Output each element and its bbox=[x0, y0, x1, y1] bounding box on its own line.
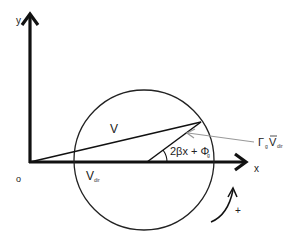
v-label: V bbox=[110, 122, 118, 136]
svg-text:g: g bbox=[265, 143, 268, 149]
rotation-arrow-icon bbox=[211, 188, 237, 222]
v-dir-label: V dir bbox=[86, 169, 100, 183]
gamma-label: Γ g V dir bbox=[258, 136, 283, 149]
angle-arc bbox=[163, 150, 167, 162]
svg-text:dir: dir bbox=[277, 143, 283, 149]
gamma-pointer bbox=[187, 129, 254, 142]
phasor-diagram: y x o V V dir 2βx + Φ g Γ g V dir bbox=[0, 0, 292, 242]
rotation-sign: + bbox=[235, 205, 241, 216]
svg-text:Γ: Γ bbox=[258, 136, 264, 148]
y-axis bbox=[22, 14, 38, 163]
svg-text:2βx + Φ: 2βx + Φ bbox=[170, 145, 209, 157]
reflection-circle bbox=[74, 90, 214, 230]
x-axis-label: x bbox=[254, 163, 259, 174]
svg-text:dir: dir bbox=[94, 177, 100, 183]
y-axis-label: y bbox=[16, 15, 21, 26]
origin-label: o bbox=[16, 174, 21, 184]
svg-text:V: V bbox=[269, 136, 277, 148]
angle-label: 2βx + Φ g bbox=[170, 145, 210, 158]
svg-text:g: g bbox=[207, 152, 210, 158]
svg-text:V: V bbox=[86, 169, 94, 183]
